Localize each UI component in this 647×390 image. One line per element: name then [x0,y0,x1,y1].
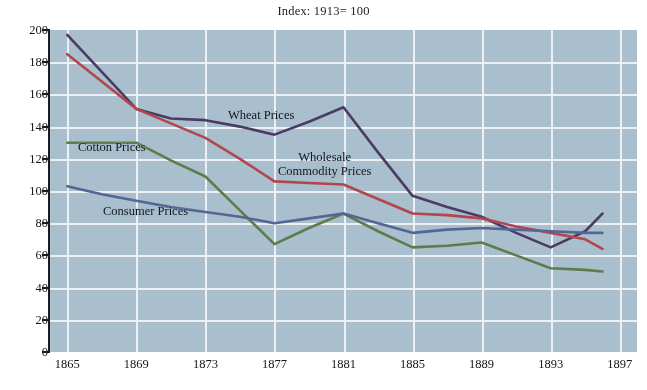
chart-figure: Index: 1913= 100 02040608010012014016018… [0,0,647,390]
y-tick-mark [42,93,49,95]
x-tick-label: 1877 [262,357,287,372]
y-tick-mark [42,287,49,289]
annotation-cotton-prices: Cotton Prices [78,140,146,154]
x-tick-label: 1889 [469,357,494,372]
x-tick-label: 1869 [124,357,149,372]
y-tick-mark [42,190,49,192]
y-tick-mark [42,126,49,128]
x-tick-label: 1881 [331,357,356,372]
chart-title: Index: 1913= 100 [0,4,647,19]
plot-area [50,30,637,352]
series-lines [50,30,637,352]
y-axis-tick-labels: 020406080100120140160180200 [0,0,48,390]
y-tick-mark [42,351,49,353]
annotation-wholesale: WholesaleCommodity Prices [278,150,371,178]
annotation-line-1: Wholesale [278,150,371,164]
x-tick-label: 1893 [538,357,563,372]
y-tick-mark [42,222,49,224]
y-tick-mark [42,61,49,63]
annotation-line-2: Commodity Prices [278,164,371,178]
y-tick-mark [42,254,49,256]
y-tick-mark [42,29,49,31]
x-tick-label: 1873 [193,357,218,372]
x-tick-label: 1897 [607,357,632,372]
y-tick-mark [42,319,49,321]
annotation-wheat-prices: Wheat Prices [228,108,294,122]
x-tick-label: 1885 [400,357,425,372]
annotation-consumer-prices: Consumer Prices [103,204,188,218]
x-tick-label: 1865 [55,357,80,372]
y-tick-mark [42,158,49,160]
